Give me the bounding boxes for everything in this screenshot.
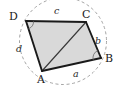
side-label-a: a <box>73 69 79 79</box>
side-c-segment <box>26 21 86 22</box>
vertex-label-b: B <box>105 53 113 64</box>
quadrilateral-shape <box>26 21 101 71</box>
side-label-b: b <box>95 36 101 46</box>
cyclic-quadrilateral-figure: D C B A c b d a <box>0 0 122 89</box>
vertex-label-c: C <box>82 9 90 20</box>
side-label-c: c <box>54 6 59 16</box>
vertex-label-a: A <box>37 74 45 85</box>
side-label-d: d <box>16 44 22 54</box>
vertex-label-d: D <box>9 11 18 22</box>
